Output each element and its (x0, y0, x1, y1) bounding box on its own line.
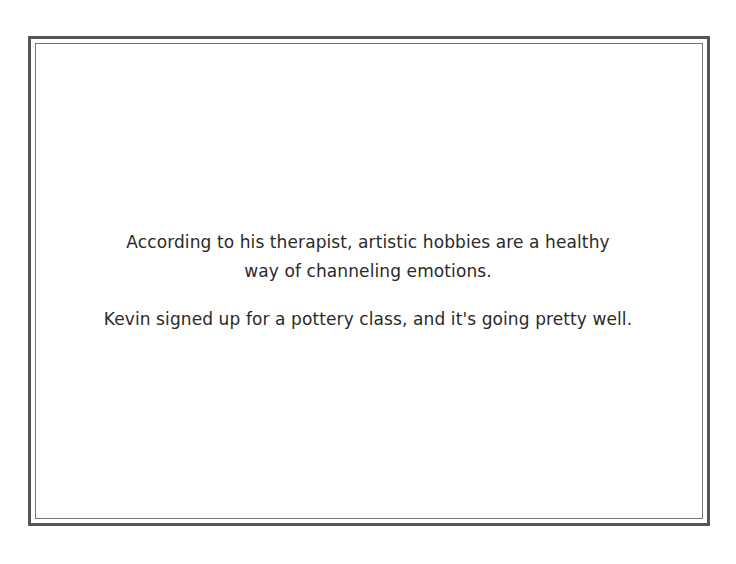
caption-line: Kevin signed up for a pottery class, and… (104, 309, 632, 329)
caption-paragraph-2: Kevin signed up for a pottery class, and… (0, 305, 736, 334)
caption-text-block: According to his therapist, artistic hob… (0, 228, 736, 334)
caption-line: According to his therapist, artistic hob… (126, 232, 609, 252)
caption-paragraph-1: According to his therapist, artistic hob… (0, 228, 736, 286)
caption-line: way of channeling emotions. (244, 261, 491, 281)
